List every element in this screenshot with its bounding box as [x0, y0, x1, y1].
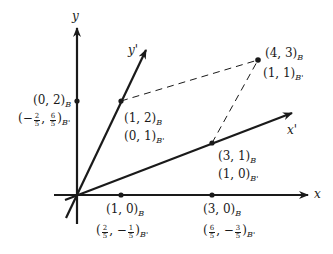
y-axis-label: y — [72, 10, 79, 22]
label-point-1-2-B: (1, 2)B — [124, 112, 162, 127]
x-axis-label: x — [314, 188, 321, 200]
coord-B: (0, 2) — [33, 93, 65, 107]
label-point-1-0-Bprime: (25, −15)B' — [96, 224, 148, 240]
basis-subscript: B' — [295, 73, 303, 82]
denominator: 5 — [235, 233, 241, 240]
dashed-line-x-prime-to-point — [212, 60, 258, 143]
basis-subscript: B — [297, 53, 303, 62]
label-point-3-0-B: (3, 0)B — [203, 203, 241, 218]
denominator: 5 — [102, 233, 108, 240]
denominator: 5 — [128, 233, 134, 240]
point-1-2 — [118, 98, 123, 103]
y-prime-axis-label: y' — [128, 44, 138, 56]
coord-B: (3, 1) — [218, 149, 250, 163]
basis-subscript: B' — [62, 118, 70, 127]
fraction: 15 — [128, 225, 134, 240]
coord-B: (1, 0) — [106, 202, 138, 216]
coord-separator: , — [41, 111, 49, 125]
fraction: 65 — [50, 113, 56, 128]
coord-separator: , − — [109, 223, 127, 237]
coord-B: (1, 2) — [124, 111, 156, 125]
coord-Bprime: (1, 0) — [218, 167, 250, 181]
denominator: 5 — [209, 233, 215, 240]
denominator: 5 — [50, 121, 56, 128]
coord-prefix: ( — [96, 223, 101, 237]
fraction: 35 — [235, 225, 241, 240]
label-point-4-3-B: (4, 3)B — [265, 47, 303, 62]
basis-subscript: B — [65, 100, 71, 109]
label-point-3-1-Bprime: (1, 0)B' — [218, 168, 258, 183]
x-prime-axis — [65, 113, 292, 200]
label-point-0-2-Bprime: (−25, 65)B' — [18, 112, 70, 128]
fraction: 25 — [34, 113, 40, 128]
basis-subscript: B — [156, 118, 162, 127]
point-0-2 — [74, 98, 79, 103]
basis-subscript: B — [235, 209, 241, 218]
coord-prefix: ( — [203, 223, 208, 237]
coord-separator: , − — [216, 223, 234, 237]
point-1-0 — [118, 192, 123, 197]
dashed-line-y-prime-to-point — [121, 60, 258, 101]
point-4-3 — [255, 57, 261, 63]
label-point-3-1-B: (3, 1)B — [218, 150, 256, 165]
coord-prefix: (− — [18, 111, 33, 125]
basis-subscript: B — [250, 156, 256, 165]
label-point-3-0-Bprime: (65, −35)B' — [203, 224, 255, 240]
coord-Bprime: (1, 1) — [263, 66, 295, 80]
label-point-1-2-Bprime: (0, 1)B' — [124, 130, 164, 145]
basis-subscript: B — [138, 209, 144, 218]
coord-B: (3, 0) — [203, 202, 235, 216]
x-prime-axis-label: x' — [287, 124, 297, 136]
label-point-4-3-Bprime: (1, 1)B' — [263, 67, 303, 82]
fraction: 25 — [102, 225, 108, 240]
basis-subscript: B' — [156, 136, 164, 145]
point-3-0 — [209, 192, 214, 197]
basis-subscript: B' — [250, 174, 258, 183]
basis-subscript: B' — [247, 230, 255, 239]
denominator: 5 — [34, 121, 40, 128]
coord-B: (4, 3) — [265, 46, 297, 60]
fraction: 65 — [209, 225, 215, 240]
point-3-1 — [209, 140, 214, 145]
label-point-1-0-B: (1, 0)B — [106, 203, 144, 218]
coord-Bprime: (0, 1) — [124, 129, 156, 143]
label-point-0-2-B: (0, 2)B — [33, 94, 71, 109]
basis-subscript: B' — [140, 230, 148, 239]
